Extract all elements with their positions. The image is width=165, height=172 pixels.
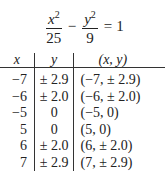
cell-x: −7 [0, 68, 34, 89]
cell-y: ± 2.0 [34, 138, 74, 155]
table-row: 6 ± 2.0 (6, ± 2.0) [0, 138, 165, 155]
table-row: −7 ± 2.9 (−7, ± 2.9) [0, 68, 165, 89]
cell-y: 0 [34, 122, 74, 139]
header-y: y [34, 53, 74, 68]
exponent: 2 [91, 9, 96, 20]
denominator: 25 [46, 29, 61, 46]
cell-point: (7, ± 2.9) [74, 155, 165, 172]
fraction-x: x2 25 [46, 7, 62, 46]
exponent: 2 [55, 9, 60, 20]
cell-x: 5 [0, 122, 34, 139]
hyperbola-equation: x2 25 − y2 9 = 1 [44, 4, 124, 48]
table-row: 5 0 (5, 0) [0, 122, 165, 139]
cell-y: ± 2.9 [34, 155, 74, 172]
cell-point: (5, 0) [74, 122, 165, 139]
equals-sign: = [104, 18, 112, 35]
cell-point: (−7, ± 2.9) [74, 68, 165, 89]
cell-x: −5 [0, 105, 34, 122]
cell-y: 0 [34, 105, 74, 122]
table-row: −6 ± 2.0 (−6, ± 2.0) [0, 89, 165, 106]
values-table: x y (x, y) −7 ± 2.9 (−7, ± 2.9) −6 ± 2.0… [0, 53, 165, 171]
numerator: x2 [46, 7, 62, 29]
cell-x: 7 [0, 155, 34, 172]
variable-x: x [48, 11, 55, 27]
numerator: y2 [82, 7, 98, 29]
cell-point: (−5, 0) [74, 105, 165, 122]
header-point: (x, y) [74, 53, 165, 68]
cell-x: 6 [0, 138, 34, 155]
table-row: −5 0 (−5, 0) [0, 105, 165, 122]
table-row: 7 ± 2.9 (7, ± 2.9) [0, 155, 165, 172]
header-x: x [0, 53, 34, 68]
table-header-row: x y (x, y) [0, 53, 165, 68]
cell-x: −6 [0, 89, 34, 106]
fraction-y: y2 9 [82, 7, 98, 46]
minus-operator: − [68, 18, 76, 35]
cell-y: ± 2.0 [34, 89, 74, 106]
cell-point: (−6, ± 2.0) [74, 89, 165, 106]
denominator: 9 [86, 29, 94, 46]
cell-y: ± 2.9 [34, 68, 74, 89]
rhs-value: 1 [116, 18, 124, 35]
cell-point: (6, ± 2.0) [74, 138, 165, 155]
variable-y: y [84, 11, 91, 27]
